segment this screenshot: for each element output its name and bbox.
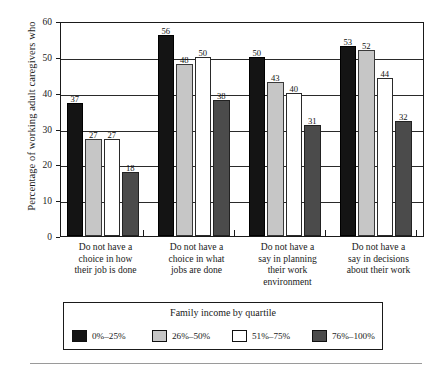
- x-axis-label-line: Do not have a: [333, 241, 424, 253]
- y-axis-tick-mark: [56, 22, 60, 23]
- bar-value-label: 27: [89, 130, 98, 140]
- y-axis-tick-label: 10: [30, 196, 52, 206]
- x-axis-label-line: choice in how: [60, 253, 151, 265]
- bar-value-label: 52: [362, 41, 371, 51]
- bar-value-label: 50: [252, 48, 261, 58]
- y-axis-tick-mark: [56, 94, 60, 95]
- bar-value-label: 18: [126, 163, 135, 173]
- bar: [158, 35, 175, 236]
- x-axis-category-label: Do not have asay in decisionsabout their…: [333, 241, 424, 276]
- x-axis-tick-mark: [325, 230, 326, 236]
- x-axis-label-line: their work: [242, 264, 333, 276]
- bar: [195, 57, 212, 236]
- legend-swatch: [152, 330, 167, 342]
- bar: [286, 93, 303, 236]
- legend-title: Family income by quartile: [64, 307, 382, 318]
- bar-value-label: 31: [308, 116, 317, 126]
- legend-swatch: [232, 330, 247, 342]
- x-axis-label-line: choice in what: [151, 253, 242, 265]
- bar-value-label: 44: [380, 69, 389, 79]
- bar-value-label: 50: [198, 48, 207, 58]
- bar: [395, 121, 412, 236]
- x-axis-label-line: Do not have a: [60, 241, 151, 253]
- x-axis-tick-mark: [416, 230, 417, 236]
- x-axis-label-line: say in decisions: [333, 253, 424, 265]
- bar-value-label: 53: [343, 37, 352, 47]
- legend-item[interactable]: 26%–50%: [152, 329, 210, 343]
- legend-swatch: [312, 330, 327, 342]
- bar-value-label: 37: [70, 94, 79, 104]
- x-axis-category-label: Do not have asay in planningtheir worken…: [242, 241, 333, 287]
- x-axis-tick-mark: [234, 230, 235, 236]
- bar-value-label: 27: [107, 130, 116, 140]
- y-axis-tick-mark: [56, 237, 60, 238]
- bar: [67, 103, 84, 236]
- y-axis-title: Percentage of working adult caregivers w…: [26, 6, 42, 226]
- legend-item[interactable]: 51%–75%: [232, 329, 290, 343]
- y-axis-tick-mark: [56, 165, 60, 166]
- y-axis-tick-label: 20: [30, 160, 52, 170]
- bar-value-label: 32: [399, 112, 408, 122]
- footer-divider: [30, 363, 422, 364]
- y-axis-tick-label: 60: [30, 17, 52, 27]
- x-axis-category-labels: Do not have achoice in howtheir job is d…: [60, 241, 424, 297]
- x-axis-label-line: Do not have a: [151, 241, 242, 253]
- y-axis-tick-mark: [56, 130, 60, 131]
- bar: [304, 125, 321, 236]
- legend-label: 0%–25%: [92, 331, 126, 341]
- bar-value-label: 38: [217, 91, 226, 101]
- y-axis-tick-label: 30: [30, 125, 52, 135]
- bar: [122, 172, 139, 237]
- bar: [176, 64, 193, 236]
- bar: [377, 78, 394, 236]
- y-axis-tick-label: 50: [30, 53, 52, 63]
- y-axis-tick-label: 0: [30, 232, 52, 242]
- legend-label: 76%–100%: [332, 331, 375, 341]
- legend-swatch: [72, 330, 87, 342]
- bar-value-label: 40: [289, 84, 298, 94]
- legend-label: 51%–75%: [252, 331, 290, 341]
- x-axis-label-line: about their work: [333, 264, 424, 276]
- x-axis-label-line: environment: [242, 276, 333, 288]
- legend: Family income by quartile 0%–25%26%–50%5…: [63, 302, 383, 350]
- bar: [358, 50, 375, 236]
- legend-item[interactable]: 76%–100%: [312, 329, 375, 343]
- x-axis-label-line: Do not have a: [242, 241, 333, 253]
- bar-value-label: 56: [161, 26, 170, 36]
- y-axis-tick-label: 40: [30, 89, 52, 99]
- x-axis-label-line: their job is done: [60, 264, 151, 276]
- y-axis-tick-mark: [56, 201, 60, 202]
- bar-value-label: 43: [271, 73, 280, 83]
- x-axis-label-line: say in planning: [242, 253, 333, 265]
- bar: [249, 57, 266, 236]
- legend-label: 26%–50%: [172, 331, 210, 341]
- y-axis-tick-mark: [56, 58, 60, 59]
- legend-item[interactable]: 0%–25%: [72, 329, 126, 343]
- x-axis-tick-mark: [143, 230, 144, 236]
- bar: [340, 46, 357, 236]
- bar: [85, 139, 102, 236]
- bar: [267, 82, 284, 236]
- plot-area: 37272718564850385043403153524432: [60, 22, 424, 237]
- bar: [213, 100, 230, 236]
- bar-value-label: 48: [180, 55, 189, 65]
- bar: [104, 139, 121, 236]
- x-axis-category-label: Do not have achoice in whatjobs are done: [151, 241, 242, 276]
- x-axis-label-line: jobs are done: [151, 264, 242, 276]
- bar-chart-figure: Percentage of working adult caregivers w…: [0, 0, 447, 371]
- x-axis-category-label: Do not have achoice in howtheir job is d…: [60, 241, 151, 276]
